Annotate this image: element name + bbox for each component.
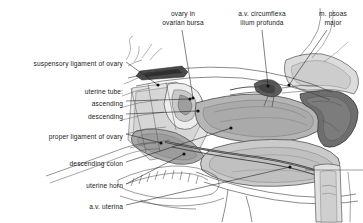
leader-uterine-tube-descending-dot bbox=[196, 109, 199, 112]
label-uterine-tube: uterine tube: bbox=[8, 88, 123, 97]
label-ascending-line-1: ascending bbox=[92, 100, 123, 107]
leader-proper-ligament-dot bbox=[159, 141, 162, 144]
label-ovary-in-ovarian-bursa: ovary inovarian bursa bbox=[152, 10, 214, 27]
leader-ovary-in-ovarian-bursa-dot bbox=[191, 96, 194, 99]
leader-m-psoas-major-dot bbox=[287, 83, 290, 86]
label-m-psoas-major-line-2: major bbox=[310, 19, 356, 28]
leader-av-circumflexa-dot bbox=[266, 84, 269, 87]
label-ovary-in-ovarian-bursa-line-1: ovary in bbox=[171, 10, 195, 17]
label-descending-colon: descending colon bbox=[8, 160, 123, 169]
label-ascending: ascending bbox=[8, 100, 123, 109]
figure-page: ovary inovarian bursaa.v. circumflexaili… bbox=[0, 0, 363, 223]
label-av-uterina: a.v. uterina bbox=[8, 203, 123, 212]
label-uterine-tube-line-1: uterine tube: bbox=[85, 88, 123, 95]
label-av-circumflexa-ilium-profunda-line-1: a.v. circumflexa bbox=[238, 10, 285, 17]
leader-descending-colon-dot bbox=[229, 126, 232, 129]
label-av-circumflexa-ilium-profunda-line-2: ilium profunda bbox=[224, 19, 300, 28]
leader-suspensory-ligament-dot bbox=[156, 83, 159, 86]
label-m-psoas-major: m. psoasmajor bbox=[310, 10, 356, 27]
leader-av-uterina-dot bbox=[288, 165, 291, 168]
label-suspensory-ligament-of-ovary: suspensory ligament of ovary bbox=[8, 60, 123, 69]
label-av-uterina-line-1: a.v. uterina bbox=[89, 203, 123, 210]
label-proper-ligament-of-ovary: proper ligament of ovary bbox=[8, 133, 123, 142]
label-suspensory-ligament-of-ovary-line-1: suspensory ligament of ovary bbox=[34, 60, 123, 67]
label-uterine-horn-line-1: uterine horn bbox=[86, 182, 123, 189]
label-ovary-in-ovarian-bursa-line-2: ovarian bursa bbox=[152, 19, 214, 28]
label-descending-line-1: descending bbox=[88, 113, 123, 120]
leader-uterine-horn-dot bbox=[182, 152, 185, 155]
label-descending: descending bbox=[8, 113, 123, 122]
leader-uterine-tube-ascending-dot bbox=[188, 97, 191, 100]
label-proper-ligament-of-ovary-line-1: proper ligament of ovary bbox=[49, 133, 123, 140]
label-av-circumflexa-ilium-profunda: a.v. circumflexailium profunda bbox=[224, 10, 300, 27]
label-descending-colon-line-1: descending colon bbox=[70, 160, 123, 167]
label-uterine-horn: uterine horn bbox=[8, 182, 123, 191]
label-m-psoas-major-line-1: m. psoas bbox=[319, 10, 347, 17]
